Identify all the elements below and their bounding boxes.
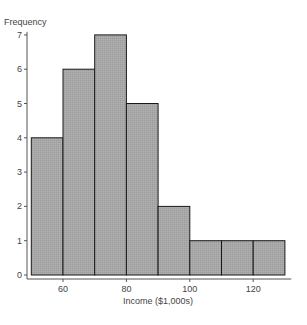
y-tick-label: 2 [17,201,22,211]
histogram-bar [222,241,254,275]
y-tick-label: 4 [17,133,22,143]
y-tick-label: 0 [17,270,22,280]
y-axis: 01234567 [17,30,27,280]
x-tick-label: 120 [246,284,261,294]
histogram-bars [31,35,285,275]
y-tick-label: 5 [17,99,22,109]
x-tick-label: 100 [182,284,197,294]
histogram-bar [253,241,285,275]
histogram-bar [63,69,95,275]
histogram-bar [31,138,63,275]
x-axis: 6080100120 [27,279,291,294]
y-tick-label: 3 [17,167,22,177]
histogram-bar [95,35,127,275]
x-tick-label: 60 [58,284,68,294]
x-tick-label: 80 [121,284,131,294]
histogram-bar [158,206,190,275]
histogram-chart: 01234567 6080100120 Frequency Income ($1… [0,0,307,325]
x-axis-title: Income ($1,000s) [123,296,193,306]
histogram-bar [126,104,158,276]
y-tick-label: 1 [17,236,22,246]
y-axis-title: Frequency [4,17,47,27]
histogram-bar [190,241,222,275]
y-tick-label: 6 [17,64,22,74]
y-tick-label: 7 [17,30,22,40]
